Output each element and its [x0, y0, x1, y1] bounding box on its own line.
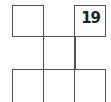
cell-clue-number: 19: [81, 11, 100, 26]
cell-r0-c0[interactable]: [12, 5, 44, 37]
grid-line-horizontal-top: [43, 36, 75, 38]
cell-r2-c0[interactable]: [12, 69, 44, 102]
cell-r0-c2[interactable]: 19: [74, 5, 106, 37]
cell-r2-c1[interactable]: [43, 69, 76, 102]
grid-line-vertical-left: [43, 36, 45, 70]
cell-r2-c2[interactable]: [74, 69, 106, 102]
grid-line-vertical-right: [74, 36, 76, 70]
